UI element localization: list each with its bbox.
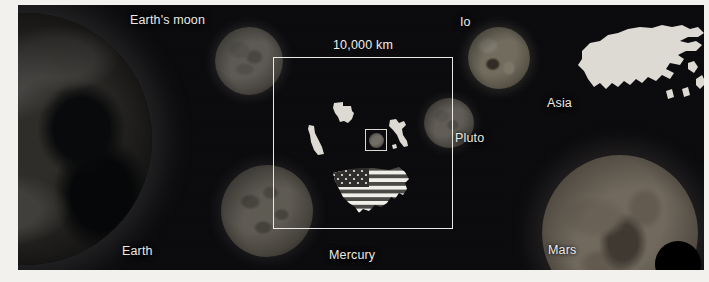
scale-reference-label: 10,000 km: [273, 38, 453, 52]
io-sphere: [468, 27, 530, 89]
label-pluto: Pluto: [455, 131, 484, 145]
label-mercury: Mercury: [329, 248, 375, 262]
framed-object-sphere: [369, 133, 384, 148]
label-asia: Asia: [547, 96, 572, 110]
label-io: Io: [460, 15, 471, 29]
california-shape: [306, 123, 326, 157]
texas-shape: [331, 99, 357, 125]
label-earths-moon: Earth's moon: [130, 13, 205, 27]
framed-object-box: [365, 129, 387, 151]
usa-flag-map-shape: [329, 163, 415, 221]
scale-comparison-infographic: 10,000 km: [0, 0, 709, 282]
label-mars: Mars: [548, 243, 576, 257]
label-earth: Earth: [122, 244, 153, 258]
space-plate: 10,000 km: [18, 5, 704, 270]
italy-shape: [386, 117, 412, 151]
asia-landmass-shape: [570, 17, 704, 113]
